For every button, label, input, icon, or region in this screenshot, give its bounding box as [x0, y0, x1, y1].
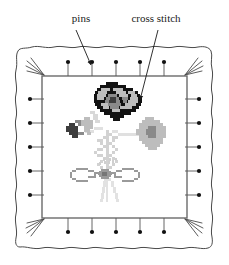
cross-stitch-diagram: pins cross stitch [0, 0, 229, 265]
figure-canvas: pins cross stitch [0, 0, 229, 265]
label-cross-stitch: cross stitch [131, 12, 181, 24]
label-pins: pins [72, 12, 90, 24]
